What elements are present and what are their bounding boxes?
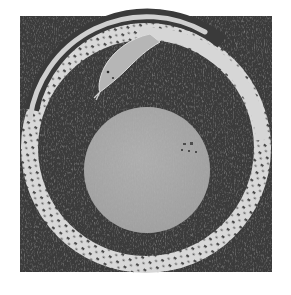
ouroboros-artwork: Engraving-style image of a snake forming…: [0, 0, 291, 295]
artwork-svg: [0, 0, 291, 295]
central-orb: [84, 107, 210, 233]
serpent-eye: [107, 71, 110, 74]
